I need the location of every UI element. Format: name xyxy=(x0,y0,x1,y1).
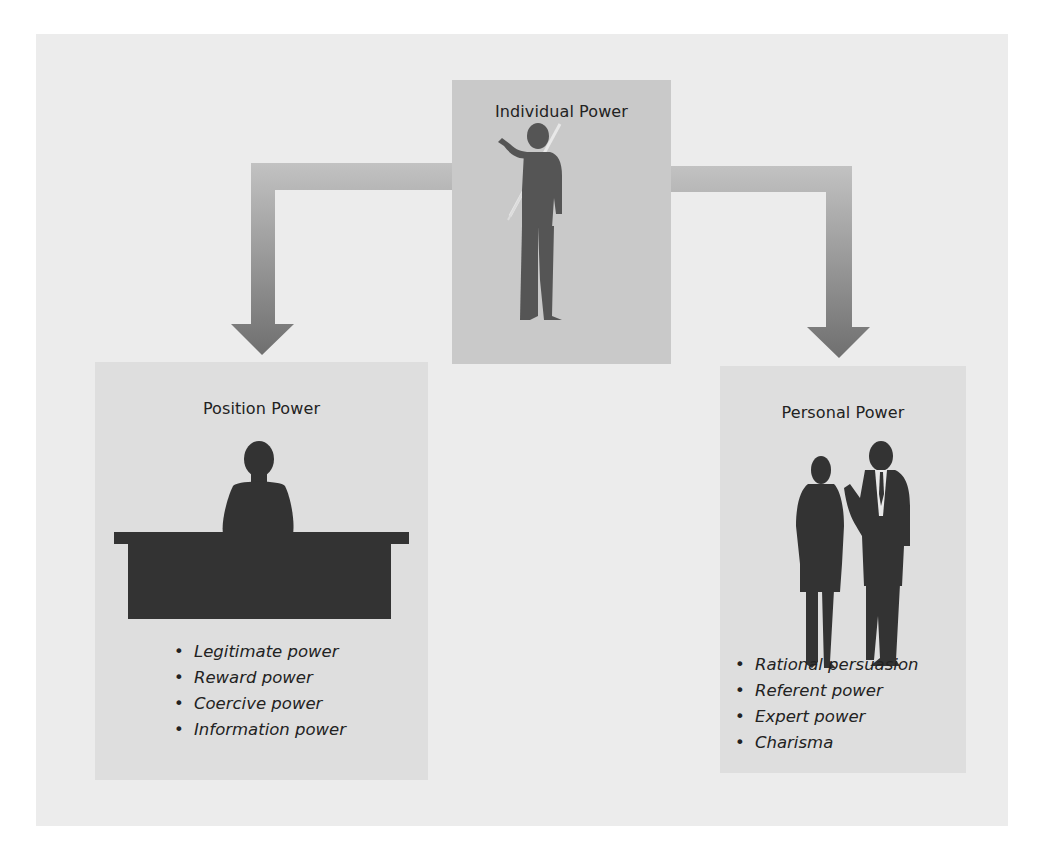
personal-power-list: Rational persuasion Referent power Exper… xyxy=(735,652,918,756)
personal-power-box: Personal Power Rational persuasion Refer… xyxy=(720,366,966,773)
list-item: Charisma xyxy=(735,730,918,756)
person-at-desk-icon xyxy=(95,362,428,622)
person-with-pointer-icon xyxy=(452,80,671,364)
list-item: Rational persuasion xyxy=(735,652,918,678)
position-power-list: Legitimate power Reward power Coercive p… xyxy=(174,639,346,743)
list-item: Expert power xyxy=(735,704,918,730)
individual-power-box: Individual Power xyxy=(452,80,671,364)
position-power-box: Position Power Legitimate power Reward p… xyxy=(95,362,428,780)
list-item: Information power xyxy=(174,717,346,743)
list-item: Coercive power xyxy=(174,691,346,717)
two-people-talking-icon xyxy=(720,366,966,636)
list-item: Reward power xyxy=(174,665,346,691)
list-item: Referent power xyxy=(735,678,918,704)
list-item: Legitimate power xyxy=(174,639,346,665)
